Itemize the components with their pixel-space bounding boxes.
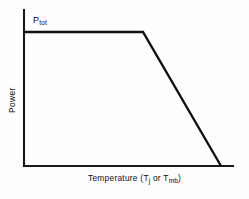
x-axis-label: Temperature (Tj or Tmb) xyxy=(88,174,181,183)
power-derating-chart: Ptot Temperature (Tj or Tmb) Power xyxy=(0,0,249,199)
ptot-subscript: tot xyxy=(39,19,47,26)
derating-curve xyxy=(24,32,221,166)
x-axis-label-sub-mb: mb xyxy=(169,177,178,184)
chart-plot-area xyxy=(0,0,249,199)
y-axis-label: Power xyxy=(8,78,16,122)
ptot-annotation-label: Ptot xyxy=(33,16,47,25)
x-axis-label-suffix: ) xyxy=(178,173,181,183)
x-axis-label-middle: or T xyxy=(150,173,168,183)
x-axis-label-prefix: Temperature (T xyxy=(88,173,149,183)
